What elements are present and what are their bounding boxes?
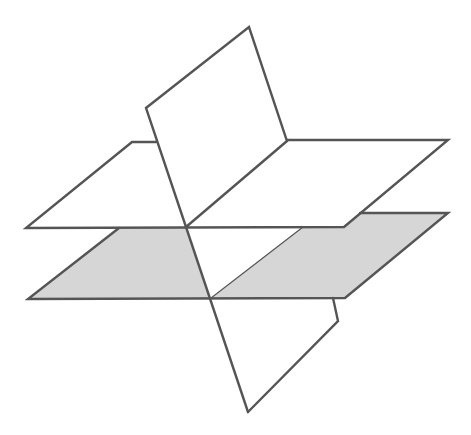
vertical-plane — [146, 27, 338, 412]
diagram-canvas — [0, 0, 471, 435]
planes-diagram — [0, 0, 471, 435]
vertical-plane-lower-outline — [248, 298, 338, 412]
vertical-plane-upper-face — [146, 27, 287, 227]
